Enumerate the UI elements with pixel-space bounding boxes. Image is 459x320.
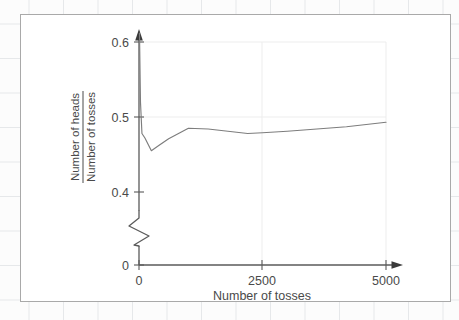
data-series-line [139, 33, 386, 151]
x-axis-arrow-icon [392, 261, 404, 269]
y-axis: 0.6 0.5 0.4 0 [112, 29, 149, 273]
x-axis: 0 2500 5000 [136, 260, 403, 288]
x-tick-label-0: 0 [136, 274, 143, 288]
gridlines [139, 42, 386, 265]
figure-frame: 0.6 0.5 0.4 0 Number of heads Number of … [20, 14, 451, 302]
y-tick-label-0.6: 0.6 [112, 36, 129, 50]
y-axis-title-denominator: Number of tosses [85, 92, 97, 182]
y-tick-label-0: 0 [122, 259, 129, 273]
chart-canvas: 0.6 0.5 0.4 0 Number of heads Number of … [21, 15, 450, 301]
y-tick-label-0.5: 0.5 [112, 111, 129, 125]
x-tick-label-2500: 2500 [248, 274, 276, 288]
x-tick-label-5000: 5000 [372, 274, 400, 288]
x-axis-title: Number of tosses [213, 289, 311, 301]
y-tick-label-0.4: 0.4 [112, 186, 129, 200]
y-axis-title: Number of heads Number of tosses [69, 91, 97, 183]
y-axis-break-icon [129, 211, 149, 246]
y-axis-title-numerator: Number of heads [69, 93, 81, 181]
page-background: 0.6 0.5 0.4 0 Number of heads Number of … [0, 0, 459, 320]
